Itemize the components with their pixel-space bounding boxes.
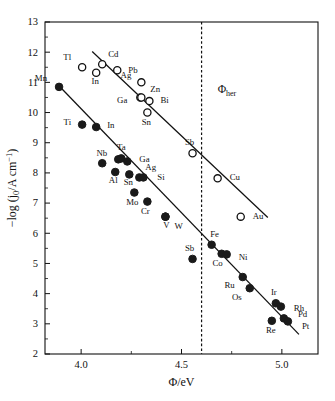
point-label-Cd: Cd <box>108 49 119 59</box>
point-label-Ga: Ga <box>117 95 127 105</box>
data-point-Ni <box>223 251 231 259</box>
point-label-Sn: Sn <box>142 117 152 127</box>
data-point-Ru <box>239 273 247 281</box>
point-label-Re: Re <box>266 325 276 335</box>
point-label-Sb: Sb <box>185 243 195 253</box>
data-point-Mn <box>55 83 63 91</box>
point-label-Pd: Pd <box>298 309 308 319</box>
point-label-Bi: Bi <box>160 95 169 105</box>
point-label-Si: Si <box>157 172 165 182</box>
y-tick-label: 8 <box>33 167 38 178</box>
point-label-Ir: Ir <box>271 287 277 297</box>
point-label-In: In <box>107 120 115 130</box>
x-tick-label: 5.0 <box>275 359 288 370</box>
data-point-In <box>92 123 100 131</box>
data-point-Sn <box>144 109 151 116</box>
data-point-Rh <box>277 303 285 311</box>
data-point-Au <box>237 213 244 220</box>
phi-her-label: Φher <box>218 83 237 98</box>
point-label-Cu: Cu <box>230 172 241 182</box>
data-point-Cr <box>144 198 152 206</box>
point-label-Fe: Fe <box>210 229 219 239</box>
y-tick-label: 2 <box>33 348 38 359</box>
y-tick-label: 6 <box>33 228 38 239</box>
y-axis-title: −log (j0/A cm−1) <box>4 149 21 228</box>
x-tick-label: 4.5 <box>175 359 188 370</box>
point-label-Zn: Zn <box>150 84 160 94</box>
point-label-Sn: Sn <box>124 177 134 187</box>
data-point-Cd <box>99 61 106 68</box>
y-tick-label: 5 <box>33 258 38 269</box>
point-label-Ag: Ag <box>145 162 156 172</box>
data-point-Mo <box>131 189 139 197</box>
y-axis-title-text: −log (j0/A cm−1) <box>4 149 21 228</box>
data-point-Ag <box>138 79 145 86</box>
data-point-Re <box>268 317 276 325</box>
x-axis-title: Φ/eV <box>168 375 194 389</box>
y-tick-label: 12 <box>28 47 39 58</box>
point-label-V: V <box>163 220 170 230</box>
data-point-W <box>162 213 170 221</box>
upper-trend-line <box>92 52 268 218</box>
point-label-Nb: Nb <box>97 148 108 158</box>
point-label-Pt: Pt <box>302 321 310 331</box>
point-label-Mn: Mn <box>35 73 48 83</box>
y-tick-label: 4 <box>33 288 39 299</box>
data-point-Os <box>246 284 254 292</box>
data-point-Ti <box>78 121 86 129</box>
point-label-Mo: Mo <box>126 197 139 207</box>
data-point-Ga <box>124 158 132 166</box>
y-tick-label: 7 <box>33 197 38 208</box>
y-tick-label: 10 <box>28 107 39 118</box>
y-tick-label: 3 <box>33 318 38 329</box>
point-label-Ta: Ta <box>117 142 126 152</box>
point-label-Tl: Tl <box>63 52 71 62</box>
data-point-Ga <box>138 94 145 101</box>
point-label-Ru: Ru <box>224 280 235 290</box>
data-point-Si <box>140 174 148 182</box>
data-point-Tl <box>79 64 86 71</box>
point-label-Al: Al <box>109 175 118 185</box>
y-tick-label: 9 <box>33 137 38 148</box>
point-label-Os: Os <box>232 292 242 302</box>
point-label-Ti: Ti <box>64 117 72 127</box>
point-label-Cr: Cr <box>141 206 150 216</box>
data-point-Pt <box>284 318 292 326</box>
y-tick-label: 13 <box>28 16 39 27</box>
point-label-Co: Co <box>213 258 224 268</box>
data-point-Fe <box>208 241 216 249</box>
point-label-W: W <box>174 221 183 231</box>
point-label-Sb: Sb <box>185 137 195 147</box>
x-tick-label: 4.0 <box>75 359 88 370</box>
point-label-In: In <box>92 76 100 86</box>
point-label-Ni: Ni <box>239 252 248 262</box>
point-label-Ag: Ag <box>121 70 132 80</box>
data-point-unlabeled <box>98 159 106 167</box>
chart-figure: 23456789101112134.04.55.0Φ/eV−log (j0/A … <box>0 0 335 401</box>
data-point-Sb <box>189 255 197 263</box>
data-point-Cu <box>214 175 221 182</box>
data-point-Bi <box>146 97 153 104</box>
data-point-Sb <box>189 150 196 157</box>
point-label-Au: Au <box>253 211 264 221</box>
scatter-plot: 23456789101112134.04.55.0Φ/eV−log (j0/A … <box>0 0 335 401</box>
